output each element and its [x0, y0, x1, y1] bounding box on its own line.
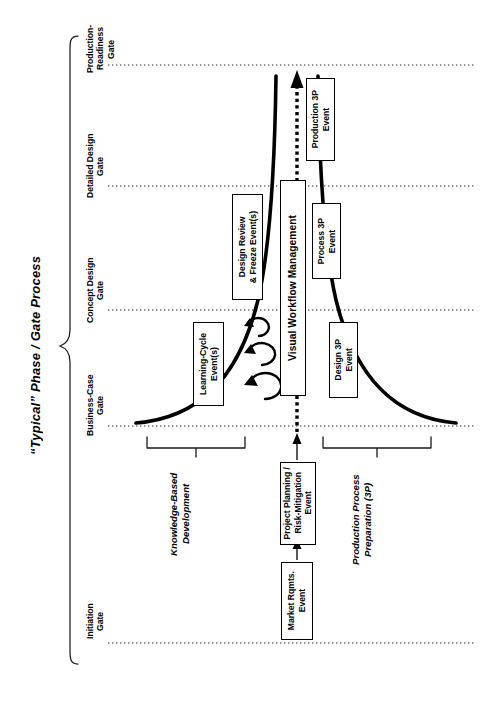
diagram-canvas: “Typical” Phase / Gate Process Productio… — [0, 0, 482, 714]
bracket-knowledge-based-development — [147, 437, 245, 457]
phase-label-knowledge-based-development: Knowledge-Based Development — [168, 462, 193, 566]
gate-label-detailed-design: Detailed Design Gate — [85, 118, 106, 214]
title-brace — [60, 36, 78, 664]
connector-planning-to-spine — [293, 433, 302, 460]
gate-label-initiation: Initiation Gate — [85, 584, 106, 658]
event-box-market-rqmts[interactable]: Market Rqmts. Event — [281, 562, 313, 640]
event-box-learning-cycle-label: Learning-Cycle Event(s) — [198, 333, 219, 395]
event-box-project-planning[interactable]: Project Planning / Risk-Mitigation Event — [280, 462, 316, 545]
page-title: “Typical” Phase / Gate Process — [28, 255, 43, 455]
phase-label-production-process-preparation: Production Process Preparation (3P) — [350, 462, 375, 578]
central-flow-arrowhead — [291, 70, 304, 88]
event-box-production-3p-label: Production 3P Event — [310, 90, 331, 148]
diagram-vector-layer — [0, 0, 482, 714]
event-box-production-3p[interactable]: Production 3P Event — [306, 78, 335, 161]
gate-label-concept-design: Concept Design Gate — [85, 242, 106, 338]
event-box-design-3p[interactable]: Design 3P Event — [329, 322, 358, 398]
gate-label-production-readiness: Production- Readiness Gate — [85, 14, 116, 84]
event-box-market-rqmts-label: Market Rqmts. Event — [286, 571, 307, 630]
event-box-process-3p-label: Process 3P Event — [316, 218, 337, 264]
event-box-learning-cycle[interactable]: Learning-Cycle Event(s) — [193, 322, 224, 406]
event-box-process-3p[interactable]: Process 3P Event — [312, 203, 341, 279]
event-box-project-planning-label: Project Planning / Risk-Mitigation Event — [282, 467, 314, 540]
event-box-visual-workflow-management[interactable]: Visual Workflow Management — [280, 180, 306, 396]
gate-label-business-case: Business-Case Gate — [85, 359, 106, 451]
bracket-production-process-preparation — [323, 437, 431, 457]
event-box-design-review-freeze[interactable]: Design Review & Freeze Event(s) — [232, 194, 263, 300]
event-box-design-3p-label: Design 3P Event — [333, 339, 354, 381]
event-box-design-review-freeze-label: Design Review & Freeze Event(s) — [237, 211, 258, 283]
event-box-visual-workflow-management-label: Visual Workflow Management — [287, 215, 300, 361]
